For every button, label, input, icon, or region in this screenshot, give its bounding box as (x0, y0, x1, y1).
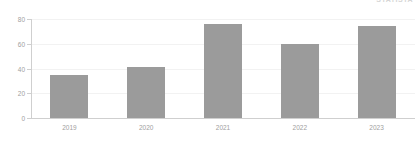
chart-screenshot: STATISTA 02040608020192020202120222023 (0, 0, 419, 141)
x-axis-tick-label: 2022 (280, 124, 320, 132)
x-axis-tick-label: 2019 (49, 124, 89, 132)
bar[interactable] (281, 44, 319, 118)
gridline (31, 19, 415, 20)
y-axis-tick-label-text: 60 (1, 41, 25, 48)
x-axis-tick-label: 2021 (203, 124, 243, 132)
y-axis-tick-label-text: 80 (1, 16, 25, 23)
x-axis-tick-label: 2020 (126, 124, 166, 132)
y-axis-tick-label: 40 (0, 66, 25, 73)
y-axis-tick-label: 80 (0, 16, 25, 23)
y-axis-line (31, 19, 32, 119)
bar-chart-plot: 02040608020192020202120222023 (0, 0, 419, 141)
y-axis-tick-label: 20 (0, 90, 25, 97)
x-axis-tick-label: 2023 (357, 124, 397, 132)
bar[interactable] (127, 67, 165, 118)
y-axis-tick-label-text: 20 (1, 90, 25, 97)
y-axis-tick-label: 0 (0, 115, 25, 122)
bar[interactable] (204, 24, 242, 118)
y-axis-tick-label-text: 0 (1, 115, 25, 122)
y-axis-tick-label: 60 (0, 41, 25, 48)
y-axis-tick-label-text: 40 (1, 66, 25, 73)
bar[interactable] (358, 26, 396, 118)
bar[interactable] (50, 75, 88, 118)
x-axis-line (31, 118, 415, 119)
